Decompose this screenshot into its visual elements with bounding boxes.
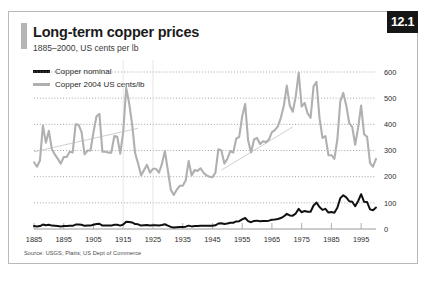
y-tick-label-500: 500 [384, 94, 396, 103]
x-tick-label-1885: 1885 [26, 235, 42, 244]
x-tick-label-1955: 1955 [234, 235, 250, 244]
trendline-trend-late [221, 127, 292, 170]
x-tick-label-1925: 1925 [145, 235, 161, 244]
chart-plot-area: 0100200300400500600188518951905191519251… [9, 12, 419, 265]
x-tick-label-1975: 1975 [293, 235, 309, 244]
series-line-nominal [34, 194, 376, 227]
x-tick-label-1995: 1995 [353, 235, 369, 244]
x-tick-label-1915: 1915 [115, 235, 131, 244]
y-tick-label-0: 0 [384, 225, 388, 234]
y-tick-label-400: 400 [384, 120, 396, 129]
x-tick-label-1935: 1935 [174, 235, 190, 244]
x-tick-label-1965: 1965 [264, 235, 280, 244]
copper-price-line-chart: 0100200300400500600188518951905191519251… [9, 12, 419, 265]
y-tick-label-300: 300 [384, 146, 396, 155]
figure-source-note: Source: USGS; Platts; US Dept of Commerc… [24, 250, 141, 256]
y-tick-label-200: 200 [384, 172, 396, 181]
y-tick-label-600: 600 [384, 68, 396, 77]
x-tick-label-1985: 1985 [323, 235, 339, 244]
x-tick-label-1945: 1945 [204, 235, 220, 244]
figure-container: 12.1 Long-term copper prices 1885–2000, … [8, 11, 418, 264]
x-tick-label-1905: 1905 [85, 235, 101, 244]
y-tick-label-100: 100 [384, 199, 396, 208]
x-tick-label-1895: 1895 [56, 235, 72, 244]
